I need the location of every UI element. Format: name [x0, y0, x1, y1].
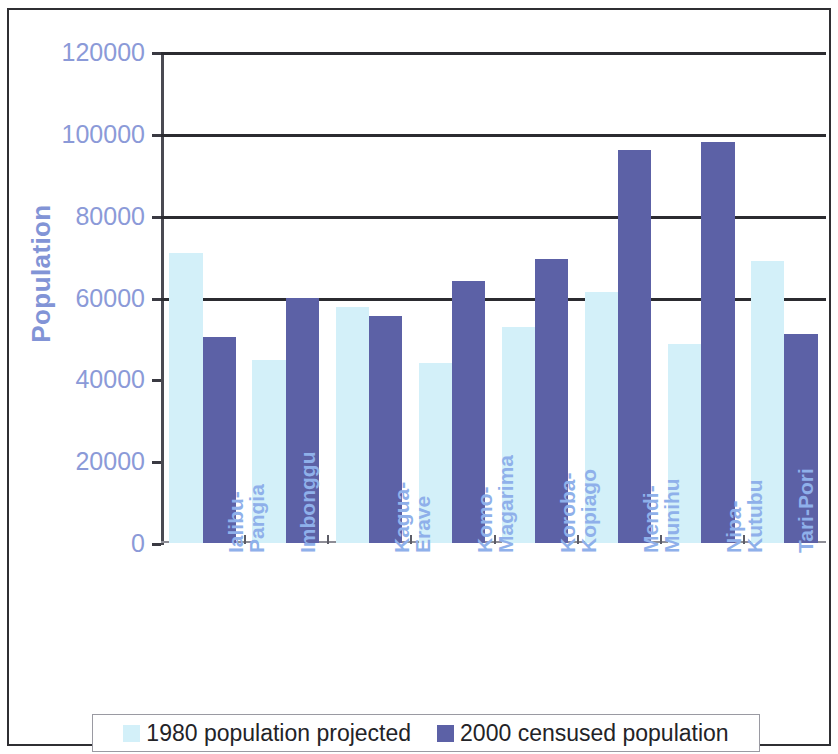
x-axis-label-imbonggu: Imbonggu — [297, 403, 339, 553]
chart-legend: 1980 population projected 2000 censused … — [92, 714, 760, 752]
x-axis-category-labels: Ialibu-PangiaImbongguKagua-EraveKomo-Mag… — [161, 547, 826, 697]
y-tick-20000 — [152, 461, 161, 464]
x-axis-label-line: Kagua- — [391, 403, 412, 553]
y-axis-title: Population — [26, 164, 57, 384]
x-axis-label-ialibu-pangia: Ialibu-Pangia — [225, 403, 267, 553]
legend-swatch-icon-series-1 — [437, 725, 454, 742]
x-axis-label-mendi-munihu: Mendi-Munihu — [640, 403, 682, 553]
x-axis-label-nipa-kutubu: Nipa-Kutubu — [723, 403, 765, 553]
y-tick-label-80000: 80000 — [75, 201, 145, 230]
x-axis-label-line: Magarima — [495, 403, 516, 553]
y-tick-label-100000: 100000 — [62, 119, 145, 148]
x-axis-label-line: Tari-Pori — [795, 403, 816, 553]
x-axis-label-line: Munihu — [661, 403, 682, 553]
y-tick-60000 — [152, 298, 161, 301]
x-axis-label-line: Nipa- — [723, 403, 744, 553]
legend-swatch-icon-series-0 — [123, 725, 140, 742]
y-tick-label-40000: 40000 — [75, 365, 145, 394]
y-tick-label-120000: 120000 — [62, 38, 145, 67]
x-axis-label-line: Imbonggu — [297, 403, 318, 553]
x-axis-label-line: Pangia — [246, 403, 267, 553]
chart-frame: Population 12000010000080000600004000020… — [7, 8, 831, 746]
y-tick-label-60000: 60000 — [75, 283, 145, 312]
legend-item-series-0: 1980 population projected — [123, 720, 411, 747]
y-tick-label-0: 0 — [131, 529, 145, 558]
legend-item-series-1: 2000 censused population — [437, 720, 729, 747]
legend-label-series-1: 2000 censused population — [460, 720, 729, 747]
x-axis-label-line: Ialibu- — [225, 403, 246, 553]
bar — [336, 307, 369, 543]
x-axis-label-line: Mendi- — [640, 403, 661, 553]
x-axis-label-koroba-kopiago: Koroba-Kopiago — [557, 403, 599, 553]
x-axis-label-line: Koroba- — [557, 403, 578, 553]
x-axis-label-komo-magarima: Komo-Magarima — [474, 403, 516, 553]
bar — [169, 253, 202, 543]
x-axis-label-line: Erave — [412, 403, 433, 553]
y-tick-100000 — [152, 134, 161, 137]
y-tick-label-20000: 20000 — [75, 447, 145, 476]
x-axis-label-tari-pori: Tari-Pori — [795, 403, 837, 553]
legend-label-series-0: 1980 population projected — [146, 720, 411, 747]
y-tick-80000 — [152, 216, 161, 219]
y-tick-0 — [152, 543, 161, 546]
y-tick-40000 — [152, 379, 161, 382]
x-axis-label-kagua-erave: Kagua-Erave — [391, 403, 433, 553]
x-axis-label-line: Kopiago — [578, 403, 599, 553]
y-tick-120000 — [152, 52, 161, 55]
x-axis-label-line: Komo- — [474, 403, 495, 553]
x-axis-label-line: Kutubu — [744, 403, 765, 553]
